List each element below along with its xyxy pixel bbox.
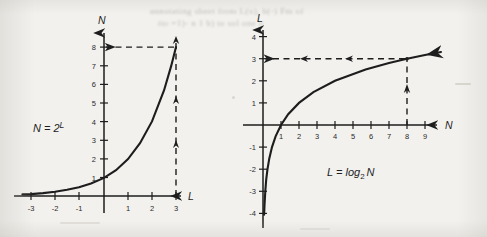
x-tick-label: 6: [369, 132, 373, 141]
y-axis-label: N: [98, 14, 106, 26]
x-tick-label: 5: [351, 132, 355, 141]
y-tick-label: 3: [252, 55, 256, 64]
x-tick-label: -1: [76, 204, 83, 213]
y-tick-label: -1: [249, 143, 256, 152]
x-tick-label: -2: [52, 204, 59, 213]
y-tick-label: 1: [252, 99, 256, 108]
y-tick-label: 2: [252, 77, 256, 86]
y-tick-label: 6: [92, 80, 96, 89]
chart-exponential: L N -3 -2 -1 1 2 3: [14, 14, 194, 213]
x-tick-label: 7: [387, 132, 391, 141]
exponential-curve: [22, 47, 176, 194]
construction-arrowhead-up: [173, 96, 179, 104]
x-axis-label: N: [445, 119, 453, 131]
y-tick-label: -3: [249, 187, 256, 196]
x-tick-label: 3: [315, 132, 319, 141]
y-tick-label: 8: [92, 43, 96, 52]
y-tick-label: 4: [92, 118, 96, 127]
y-tick-label: -2: [249, 165, 256, 174]
x-tick-label: 8: [405, 132, 409, 141]
x-tick-label: 2: [297, 132, 301, 141]
equation-label-logarithmic: L = log2N: [327, 166, 375, 181]
x-tick-label: 4: [333, 132, 337, 141]
marked-point: [405, 57, 409, 61]
equation-label-exponential: N = 2L: [33, 120, 65, 135]
x-tick-label: 2: [150, 204, 154, 213]
x-tick-label: 3: [174, 204, 178, 213]
two-graph-figure: L N -3 -2 -1 1 2 3: [0, 0, 487, 237]
x-tick-label: 1: [279, 132, 283, 141]
y-tick-label: 7: [92, 62, 96, 71]
construction-arrowhead-up: [173, 36, 179, 44]
y-tick-label: -4: [249, 209, 256, 218]
y-tick-labels: 1 2 3 4 5 6 7 8: [92, 43, 96, 182]
y-tick-label: 2: [92, 155, 96, 164]
x-tick-labels: -3 -2 -1 1 2 3: [28, 204, 178, 213]
x-tick-label: -3: [28, 204, 35, 213]
x-tick-label: 1: [126, 204, 130, 213]
y-tick-label: 3: [92, 136, 96, 145]
chart-logarithmic: N L 1 2 3 4 5 6 7 8 9: [243, 12, 453, 228]
x-axis-label: L: [188, 190, 194, 202]
y-tick-label: 4: [252, 33, 256, 42]
y-tick-label: 5: [92, 99, 96, 108]
construction-arrowhead-up: [173, 140, 179, 148]
x-tick-label: 9: [423, 132, 427, 141]
y-axis-label: L: [257, 12, 263, 24]
x-tick-labels: 1 2 3 4 5 6 7 8 9: [279, 132, 427, 141]
